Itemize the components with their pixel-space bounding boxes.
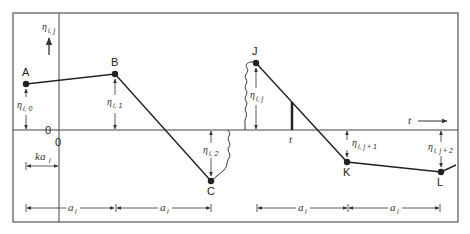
point-A: A xyxy=(22,66,30,87)
y-axis-label: η i, j xyxy=(42,21,55,55)
zero-label-origin: 0 xyxy=(55,136,61,148)
svg-text:i, 1: i, 1 xyxy=(113,102,122,109)
point-B: B xyxy=(111,56,118,77)
svg-text:a: a xyxy=(390,201,396,213)
svg-text:η: η xyxy=(17,99,22,110)
curve-segment-JKL xyxy=(256,63,456,172)
eta-i2-dimension: η i, 2 xyxy=(203,131,218,176)
point-C: C xyxy=(207,178,215,197)
svg-text:K: K xyxy=(343,166,351,178)
svg-text:η: η xyxy=(42,21,47,32)
svg-text:i, 0: i, 0 xyxy=(23,105,32,112)
a-interval-4: a i xyxy=(349,201,440,215)
svg-text:A: A xyxy=(22,66,30,78)
eta-ij2-dimension: η i, j + 2 xyxy=(428,131,453,167)
eta-ij-dimension: η i, j xyxy=(250,68,263,129)
eta-i1-dimension: η i, 1 xyxy=(107,79,122,129)
diagram-frame xyxy=(13,13,458,222)
a-interval-2: a i xyxy=(116,201,211,215)
svg-text:B: B xyxy=(111,56,118,68)
svg-text:i, j + 1: i, j + 1 xyxy=(358,143,377,151)
svg-text:C: C xyxy=(207,185,215,197)
svg-text:a: a xyxy=(298,201,304,213)
interpolation-diagram: 0 0 η i, j t t A B C J K L xyxy=(0,0,470,234)
svg-text:η: η xyxy=(107,96,112,107)
svg-text:i, 2: i, 2 xyxy=(209,150,218,157)
svg-text:i, j: i, j xyxy=(48,27,55,35)
svg-text:t: t xyxy=(408,114,412,126)
svg-text:η: η xyxy=(352,137,357,148)
svg-text:i, j + 2: i, j + 2 xyxy=(434,147,453,155)
point-J: J xyxy=(252,45,259,66)
svg-text:ka: ka xyxy=(35,150,46,162)
point-L: L xyxy=(437,169,444,188)
t-axis-arrow: t xyxy=(408,114,447,126)
svg-text:η: η xyxy=(250,89,255,100)
svg-text:η: η xyxy=(428,141,433,152)
eta-ij1-dimension: η i, j + 1 xyxy=(347,131,377,157)
svg-text:η: η xyxy=(203,144,208,155)
svg-text:a: a xyxy=(68,201,74,213)
svg-text:i: i xyxy=(49,157,51,164)
t-label: t xyxy=(289,133,293,145)
point-K: K xyxy=(343,159,351,178)
eta-i0-dimension: η i, 0 xyxy=(17,89,32,129)
svg-text:i, j: i, j xyxy=(256,95,263,103)
svg-text:J: J xyxy=(252,45,258,57)
ka-interval: ka i xyxy=(26,150,58,170)
a-interval-3: a i xyxy=(257,201,348,215)
zero-label-left: 0 xyxy=(45,124,51,136)
curve-segment-ABC xyxy=(26,74,211,181)
svg-text:a: a xyxy=(160,201,166,213)
svg-text:L: L xyxy=(437,176,443,188)
a-interval-1: a i xyxy=(26,201,114,215)
